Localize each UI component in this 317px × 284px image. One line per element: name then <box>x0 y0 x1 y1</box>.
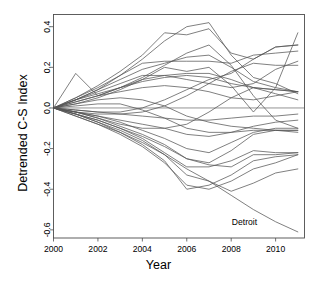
series-annotations: Detroit <box>232 217 258 227</box>
x-tick-label: 2000 <box>44 244 63 254</box>
y-tick-label: -0.6 <box>42 222 52 237</box>
y-tick-label: -0.4 <box>42 182 52 197</box>
y-tick-label: 0.0 <box>42 102 52 114</box>
x-axis-title: Year <box>0 258 317 272</box>
x-tick-label: 2010 <box>266 244 285 254</box>
y-tick-label: 0.4 <box>42 21 52 33</box>
y-axis-title: Detrended C-S Index <box>16 63 30 203</box>
series-label-detroit: Detroit <box>232 217 258 227</box>
y-tick-label: -0.2 <box>42 141 52 156</box>
line-chart-plot: 2000200220042006200820100.40.20.0-0.2-0.… <box>0 0 317 284</box>
y-tick-label: 0.2 <box>42 61 52 73</box>
x-tick-label: 2002 <box>88 244 107 254</box>
x-tick-label: 2006 <box>177 244 196 254</box>
x-tick-label: 2008 <box>222 244 241 254</box>
x-tick-label: 2004 <box>133 244 152 254</box>
chart-figure: 2000200220042006200820100.40.20.0-0.2-0.… <box>0 0 317 284</box>
